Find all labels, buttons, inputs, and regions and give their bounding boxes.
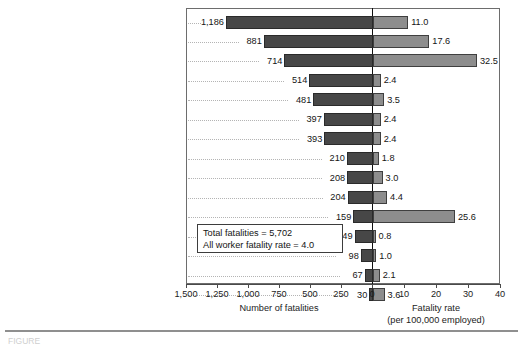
fatality-count-bar [355, 230, 373, 243]
fatality-count-bar [264, 35, 373, 48]
fatality-rate-bar [373, 230, 376, 243]
right-axis-tick [436, 284, 437, 288]
fatality-count-bar [309, 74, 373, 87]
left-axis-tick-label: 1,250 [206, 289, 229, 300]
left-axis-tick-label: 1,500 [175, 289, 198, 300]
fatality-rate-bar [373, 171, 383, 184]
fatality-rate-value: 2.4 [384, 114, 397, 125]
footer-divider [5, 330, 518, 332]
leader-line [188, 81, 284, 83]
fatality-rate-bar [373, 132, 381, 145]
left-axis-tick [341, 284, 342, 288]
fatality-count-value: 1,186 [200, 17, 224, 28]
fatality-rate-bar [373, 152, 379, 165]
fatality-count-value: 210 [321, 153, 345, 164]
right-axis-tick-label: 20 [431, 289, 441, 300]
fatality-rate-value: 17.6 [432, 36, 450, 47]
bar-row: 4813.5 [187, 91, 499, 111]
right-axis-tick-label: 40 [495, 289, 505, 300]
annotation-box: Total fatalities = 5,702 All worker fata… [197, 224, 343, 253]
fatality-rate-bar [373, 191, 387, 204]
left-axis-tick [279, 284, 280, 288]
fatality-count-bar [365, 269, 373, 282]
fatality-rate-bar [373, 54, 477, 67]
fatality-count-bar [348, 191, 373, 204]
right-axis-tick-label: 10 [399, 289, 409, 300]
right-axis-title-line1: Fatality rate [412, 303, 460, 313]
fatality-rate-value: 3.5 [387, 95, 400, 106]
fatality-rate-bar [373, 269, 380, 282]
left-axis-tick-label: 750 [271, 289, 286, 300]
right-axis-title-line2: (per 100,000 employed) [387, 315, 485, 325]
fatality-rate-bar [373, 16, 408, 29]
fatality-count-value: 393 [298, 134, 322, 145]
bar-row: 672.1 [187, 266, 499, 286]
annotation-total-fatalities: Total fatalities = 5,702 [203, 227, 342, 239]
leader-line [188, 217, 328, 219]
fatality-count-value: 481 [287, 95, 311, 106]
figure-container: 1,18611.088117.671432.55142.44813.53972.… [0, 0, 523, 344]
right-axis-title: Fatality rate (per 100,000 employed) [387, 303, 485, 326]
leader-line [188, 120, 299, 122]
fatality-count-bar [347, 171, 373, 184]
leader-line [188, 178, 322, 180]
fatality-count-bar [347, 152, 373, 165]
fatality-rate-value: 1.8 [382, 153, 395, 164]
fatality-count-value: 514 [283, 75, 307, 86]
fatality-rate-value: 2.4 [384, 75, 397, 86]
bar-row: 71432.5 [187, 52, 499, 72]
fatality-count-value: 159 [327, 212, 351, 223]
left-axis-tick [372, 284, 373, 288]
bar-row: 2101.8 [187, 149, 499, 169]
fatality-rate-value: 1.0 [379, 251, 392, 262]
fatality-rate-value: 4.4 [390, 192, 403, 203]
bar-row: 2044.4 [187, 188, 499, 208]
leader-line [188, 100, 288, 102]
fatality-rate-bar [373, 210, 455, 223]
fatality-count-bar [361, 249, 373, 262]
leader-line [188, 159, 322, 161]
fatality-count-value: 204 [322, 192, 346, 203]
fatality-count-bar [324, 132, 373, 145]
fatality-rate-bar [373, 113, 381, 126]
bar-row: 3932.4 [187, 130, 499, 150]
fatality-count-bar [226, 16, 373, 29]
leader-line [188, 61, 259, 63]
fatality-count-value: 397 [298, 114, 322, 125]
fatality-rate-bar [373, 93, 384, 106]
fatality-rate-bar [373, 35, 429, 48]
leader-line [188, 276, 340, 278]
left-axis-tick [248, 284, 249, 288]
leader-line [188, 42, 239, 44]
right-axis-tick [404, 284, 405, 288]
fatality-count-value: 208 [321, 173, 345, 184]
bar-row: 2083.0 [187, 169, 499, 189]
left-axis-tick-label: 1,000 [237, 289, 260, 300]
left-axis-tick-label: 0 [369, 289, 374, 300]
fatality-rate-value: 3.0 [386, 173, 399, 184]
fatality-count-bar [284, 54, 373, 67]
annotation-all-worker-rate: All worker fatality rate = 4.0 [203, 239, 342, 251]
left-axis-tick [186, 284, 187, 288]
bar-row: 3972.4 [187, 110, 499, 130]
bar-row: 88117.6 [187, 32, 499, 52]
fatality-count-value: 881 [238, 36, 262, 47]
leader-line [188, 256, 336, 258]
left-axis-tick-label: 500 [302, 289, 317, 300]
fatality-count-bar [353, 210, 373, 223]
left-axis-tick-label: 250 [333, 289, 348, 300]
fatality-rate-bar [373, 74, 381, 87]
leader-line [188, 139, 299, 141]
right-axis-tick [468, 284, 469, 288]
fatality-rate-value: 32.5 [480, 56, 498, 67]
fatality-count-value: 714 [258, 56, 282, 67]
right-axis-tick [500, 284, 501, 288]
leader-line [188, 198, 323, 200]
left-axis-tick [310, 284, 311, 288]
fatality-count-value: 67 [339, 270, 363, 281]
fatality-rate-value: 2.1 [383, 270, 396, 281]
footer-caption: FIGURE [8, 336, 208, 344]
left-axis-tick [217, 284, 218, 288]
fatality-rate-value: 0.8 [379, 231, 392, 242]
fatality-count-bar [324, 113, 373, 126]
